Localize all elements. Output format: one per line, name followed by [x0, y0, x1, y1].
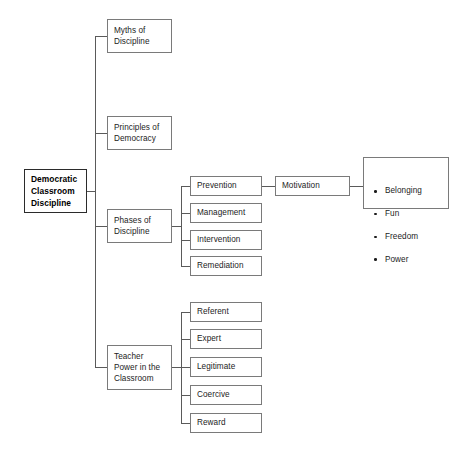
node-principles-of-democracy[interactable]: Principles of Democracy — [107, 116, 172, 150]
node-phases-of-discipline[interactable]: Phases of Discipline — [107, 209, 172, 243]
node-root-democratic-classroom-discipline[interactable]: Democratic Classroom Discipline — [24, 169, 87, 213]
diagram-canvas: Democratic Classroom Discipline Myths of… — [0, 0, 467, 464]
needs-item-fun: Fun — [372, 208, 442, 220]
node-referent-power[interactable]: Referent — [190, 302, 262, 322]
node-reward-power[interactable]: Reward — [190, 413, 262, 433]
node-motivation-needs-list[interactable]: Belonging Fun Freedom Power — [363, 157, 449, 209]
needs-list: Belonging Fun Freedom Power — [372, 174, 442, 276]
node-remediation[interactable]: Remediation — [190, 256, 262, 276]
node-expert-power[interactable]: Expert — [190, 329, 262, 349]
node-coercive-power[interactable]: Coercive — [190, 385, 262, 405]
node-myths-of-discipline[interactable]: Myths of Discipline — [107, 19, 172, 53]
node-motivation[interactable]: Motivation — [275, 176, 350, 196]
node-prevention[interactable]: Prevention — [190, 176, 262, 196]
needs-item-power: Power — [372, 254, 442, 266]
node-management[interactable]: Management — [190, 203, 262, 223]
node-legitimate-power[interactable]: Legitimate — [190, 357, 262, 377]
node-teacher-power-in-the-classroom[interactable]: Teacher Power in the Classroom — [107, 345, 172, 390]
needs-item-belonging: Belonging — [372, 185, 442, 197]
needs-item-freedom: Freedom — [372, 231, 442, 243]
node-intervention[interactable]: Intervention — [190, 230, 262, 250]
